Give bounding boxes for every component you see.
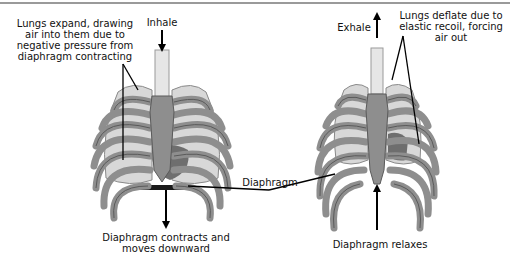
sternum-icon [150,96,174,182]
inhale-diaphragm-caption: Diaphragm contracts and moves downward [96,232,236,254]
diaphragm-label: Diaphragm [240,177,300,188]
sternum-icon [366,94,388,184]
inhale-label: Inhale [142,17,182,28]
inhale-ribcage [94,50,230,218]
exhale-diaphragm-caption: Diaphragm relaxes [325,239,435,250]
inhale-lung-caption: Lungs expand, drawing air into them due … [10,18,140,62]
trachea-icon [371,48,383,94]
exhale-label: Exhale [334,22,374,33]
exhale-lung-caption: Lungs deflate due to elastic recoil, for… [392,10,510,43]
trachea-icon [155,50,169,98]
